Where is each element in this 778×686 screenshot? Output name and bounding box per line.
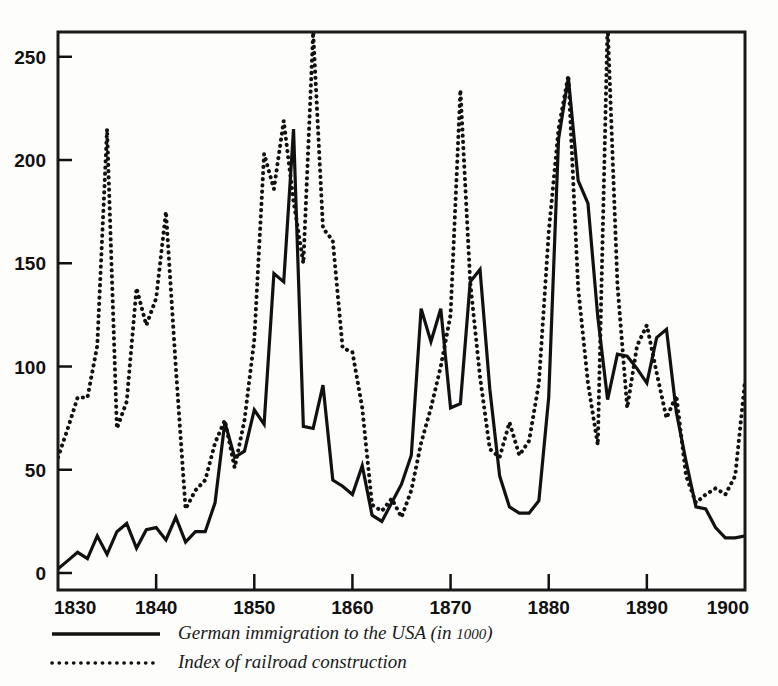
x-tick-label-1900: 1900 bbox=[707, 597, 749, 618]
y-tick-label-150: 150 bbox=[14, 253, 46, 274]
x-tick-label-1850: 1850 bbox=[233, 597, 275, 618]
x-tick-label-1880: 1880 bbox=[528, 597, 570, 618]
legend-label: German immigration to the USA (in 1000) bbox=[178, 622, 493, 644]
y-tick-label-250: 250 bbox=[14, 47, 46, 68]
y-tick-label-50: 50 bbox=[25, 460, 46, 481]
legend-label: Index of railroad construction bbox=[177, 651, 407, 672]
y-tick-label-0: 0 bbox=[35, 563, 46, 584]
chart-background bbox=[0, 0, 778, 686]
x-tick-label-1860: 1860 bbox=[331, 597, 373, 618]
x-tick-label-1870: 1870 bbox=[429, 597, 471, 618]
y-tick-label-200: 200 bbox=[14, 150, 46, 171]
x-tick-label-1840: 1840 bbox=[135, 597, 177, 618]
chart-figure: 050100150200250 183018401850186018701880… bbox=[0, 0, 778, 686]
y-tick-label-100: 100 bbox=[14, 357, 46, 378]
chart-svg: 050100150200250 183018401850186018701880… bbox=[0, 0, 778, 686]
x-tick-label-1830: 1830 bbox=[54, 597, 96, 618]
x-tick-label-1890: 1890 bbox=[626, 597, 668, 618]
